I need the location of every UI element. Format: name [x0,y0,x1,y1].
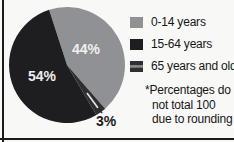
pie-chart-figure: 44%54%3% 0-14 years 15-64 years 65 years… [0,0,234,142]
footnote-line: not total 100 [152,98,232,113]
legend-label: 0-14 years [151,16,206,28]
legend-swatch-15-64-years [130,39,143,50]
footnote-line: due to rounding [152,112,232,127]
slice-label-54-pct: 54% [28,68,57,84]
legend-label: 65 years and older [151,60,234,72]
legend-label: 15-64 years [151,38,212,50]
legend-item-65-and-older: 65 years and older [130,60,234,72]
rounding-footnote: *Percentages do not total 100 due to rou… [152,83,232,127]
slice-label-44-pct: 44% [72,41,101,57]
legend: 0-14 years 15-64 years 65 years and olde… [130,16,234,82]
legend-item-15-64-years: 15-64 years [130,38,234,50]
slice-label-3-pct: 3% [96,113,117,129]
legend-swatch-0-14-years [130,17,143,28]
legend-swatch-65-and-older [130,61,143,72]
legend-item-0-14-years: 0-14 years [130,16,234,28]
footnote-line: *Percentages do [145,83,232,98]
